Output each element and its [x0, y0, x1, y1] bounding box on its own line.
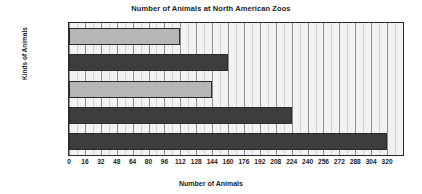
x-tick-label-32: 32	[97, 158, 104, 165]
x-tick-label-80: 80	[145, 158, 152, 165]
x-tick-label-64: 64	[129, 158, 136, 165]
chart-title: Number of Animals at North American Zoos	[0, 4, 422, 13]
x-tick-label-320: 320	[382, 158, 393, 165]
x-tick-label-96: 96	[161, 158, 168, 165]
x-tick-label-192: 192	[254, 158, 265, 165]
x-tick-label-48: 48	[113, 158, 120, 165]
x-tick-label-160: 160	[223, 158, 234, 165]
x-tick-label-272: 272	[334, 158, 345, 165]
x-tick-label-288: 288	[350, 158, 361, 165]
x-tick-label-176: 176	[238, 158, 249, 165]
x-tick-label-0: 0	[67, 158, 71, 165]
x-tick-label-240: 240	[302, 158, 313, 165]
x-tick-label-16: 16	[81, 158, 88, 165]
x-axis-tick-labels: 0163248648096112128144160176192208224240…	[68, 158, 404, 170]
x-tick-label-208: 208	[270, 158, 281, 165]
y-axis-tick-labels: GiraffesElephantsCheetahsFlamingosLions	[0, 22, 422, 156]
x-tick-label-128: 128	[191, 158, 202, 165]
x-tick-label-304: 304	[366, 158, 377, 165]
bar-chart: Number of Animals at North American Zoos…	[0, 0, 422, 194]
x-axis-title: Number of Animals	[0, 180, 422, 187]
x-tick-label-112: 112	[175, 158, 186, 165]
x-tick-label-144: 144	[207, 158, 218, 165]
x-tick-label-224: 224	[286, 158, 297, 165]
x-tick-label-256: 256	[318, 158, 329, 165]
